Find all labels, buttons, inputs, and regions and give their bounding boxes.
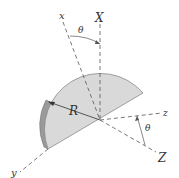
label-Z: Z (157, 151, 167, 165)
y-axis-line (20, 149, 48, 172)
label-X: X (94, 11, 104, 25)
theta-arc-top-arrowhead (95, 40, 100, 44)
semicircular-plate-diagram: x X θ R z θ Z y (0, 0, 179, 178)
label-x: x (59, 10, 65, 21)
theta-arc-right (137, 116, 145, 145)
semicircular-plate (44, 73, 143, 149)
label-z: z (162, 108, 168, 118)
label-R: R (68, 104, 78, 118)
label-theta-top: θ (78, 25, 84, 35)
z-axis-line (100, 113, 162, 120)
label-theta-right: θ (145, 123, 151, 133)
label-y: y (10, 167, 17, 178)
